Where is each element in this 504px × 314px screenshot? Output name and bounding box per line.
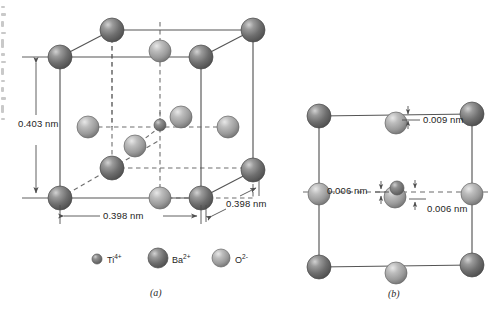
figure-canvas	[0, 0, 504, 314]
legend-o-charge: 2-	[242, 253, 248, 260]
ba-ion-bottom-back-left	[100, 156, 124, 180]
legend-o-sphere-icon	[212, 249, 230, 267]
dimension-label-width: 0.398 nm	[103, 210, 143, 221]
oxygen-ions-panel-b	[308, 112, 483, 284]
dimension-label-0006-right: 0.006 nm	[427, 203, 467, 214]
o-ion-right-face	[217, 116, 239, 138]
ba-ion-top-front-left	[48, 45, 72, 69]
panel-a-letter: (a)	[150, 287, 162, 298]
legend-item-ti: Ti4+	[107, 253, 122, 265]
legend-ba-charge: 2+	[183, 253, 190, 260]
dimension-0006-right-arrows	[409, 180, 426, 210]
dimension-label-depth: 0.398 nm	[226, 198, 266, 209]
legend-ti-sphere-icon	[92, 254, 102, 264]
o-ion-top-b	[385, 112, 407, 134]
o-ion-bottom-b	[385, 262, 407, 284]
ba-ion-top-back-left	[100, 18, 124, 42]
ti-ion-displaced-b	[390, 181, 404, 195]
ba-ion-top-front-right	[189, 45, 213, 69]
o-ion-bottom-face	[149, 187, 171, 209]
o-ion-top-face	[149, 40, 171, 62]
o-ion-right-b	[461, 183, 483, 205]
legend-ba-sphere-icon	[148, 248, 168, 268]
page-edge-artifact	[1, 6, 6, 102]
ba-ion-top-left-b	[307, 104, 331, 128]
dimension-label-0009: 0.009 nm	[423, 114, 463, 125]
ba-ion-top-back-right	[241, 18, 265, 42]
legend-item-ba: Ba2+	[172, 253, 190, 265]
o-ion-back-face	[170, 106, 192, 128]
legend-o-symbol: O	[235, 255, 242, 265]
ba-ion-bottom-left-b	[307, 255, 331, 279]
ba-ion-top-right-b	[460, 102, 484, 126]
panel-b-letter: (b)	[388, 288, 400, 299]
ba-ion-bottom-back-right	[241, 158, 265, 182]
o-ion-front-face	[124, 135, 146, 157]
legend-ba-symbol: Ba	[172, 255, 183, 265]
dimension-label-0006-left: 0.006 nm	[327, 185, 367, 196]
panel-a-unit-cell	[22, 18, 265, 224]
legend-item-o: O2-	[235, 253, 248, 265]
ti-ion-body-center	[154, 119, 166, 131]
dimension-label-height: 0.403 nm	[18, 118, 58, 129]
ba-ion-bottom-right-b	[460, 253, 484, 277]
o-ion-left-face	[77, 116, 99, 138]
legend-ti-charge: 4+	[114, 253, 121, 260]
crystal-structure-figure: 0.403 nm 0.398 nm 0.398 nm 0.009 nm 0.00…	[0, 0, 504, 314]
